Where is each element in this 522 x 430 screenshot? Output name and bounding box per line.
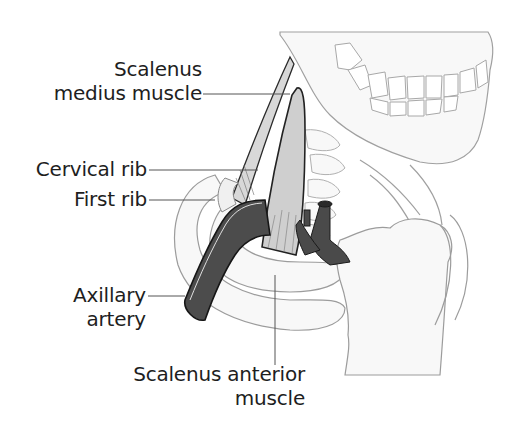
label-scalenus-anterior-line2: muscle — [133, 386, 305, 410]
diagram-canvas: Scalenus medius muscle Cervical rib Firs… — [0, 0, 522, 430]
scapula — [337, 215, 468, 375]
vessel-branches — [296, 201, 350, 265]
label-scalenus-anterior-line1: Scalenus anterior — [133, 362, 305, 386]
label-axillary-artery: Axillary artery — [73, 283, 146, 331]
label-scalenus-medius-line2: medius muscle — [54, 81, 202, 105]
label-scalenus-medius-muscle: Scalenus medius muscle — [54, 57, 202, 105]
label-first-rib-text: First rib — [74, 187, 147, 211]
clavicle-lines — [360, 160, 442, 225]
label-cervical-rib-text: Cervical rib — [36, 157, 147, 181]
label-axillary-artery-line2: artery — [73, 307, 146, 331]
label-cervical-rib: Cervical rib — [36, 157, 147, 181]
label-scalenus-medius-line1: Scalenus — [54, 57, 202, 81]
label-scalenus-anterior-muscle: Scalenus anterior muscle — [133, 362, 305, 410]
label-axillary-artery-line1: Axillary — [73, 283, 146, 307]
label-first-rib: First rib — [74, 187, 147, 211]
